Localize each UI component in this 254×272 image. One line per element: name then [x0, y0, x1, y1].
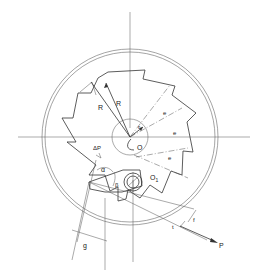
- dimension-lines: [72, 153, 218, 270]
- label-e-1: e: [163, 110, 167, 116]
- tooth-contact-lines: [130, 85, 188, 178]
- label-O: O: [137, 144, 143, 151]
- label-beta: β: [115, 182, 119, 188]
- label-e-3: e: [168, 155, 172, 161]
- center-axes: [18, 12, 250, 262]
- ratchet-diagram: R R r O ΔP α β O1 g f t P e e e: [0, 0, 254, 272]
- label-f: f: [193, 217, 195, 223]
- diagram-canvas: R R r O ΔP α β O1 g f t P e e e: [0, 0, 254, 272]
- label-P: P: [219, 242, 224, 249]
- label-delta-P: ΔP: [93, 145, 101, 151]
- label-O1: O1: [150, 174, 158, 183]
- label-e-2: e: [173, 130, 177, 136]
- label-r: r: [138, 124, 140, 130]
- label-t: t: [172, 224, 174, 230]
- label-R-outer: R: [98, 104, 103, 111]
- label-g: g: [83, 242, 87, 250]
- label-R-inner: R: [116, 100, 121, 107]
- center-curl: [128, 139, 134, 150]
- label-alpha: α: [101, 166, 105, 173]
